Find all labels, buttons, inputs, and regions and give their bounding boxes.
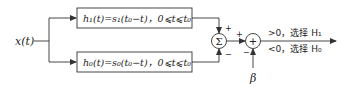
adder-node: + + −	[236, 30, 261, 57]
decision-upper-label: >0，选择 H₁	[268, 27, 322, 38]
summer-node: Σ + −	[212, 24, 232, 59]
summer-top-sign: +	[225, 24, 232, 33]
adder-left-sign: +	[236, 30, 243, 39]
threshold-label: β	[249, 72, 256, 85]
input-label: x(t)	[15, 35, 34, 48]
summer-bottom-sign: −	[225, 50, 232, 59]
filter-h0-label: h₀(t)=s₀(t₀−t)，0⩽t⩽t₀	[83, 57, 191, 68]
matched-filter-detector-diagram: x(t) h₁(t)=s₁(t₀−t)，0⩽t⩽t₀ h₀(t)=s₀(t₀−t…	[0, 0, 343, 87]
filter-h1-label: h₁(t)=s₁(t₀−t)，0⩽t⩽t₀	[83, 13, 191, 24]
adder-bottom-sign: −	[243, 48, 250, 57]
decision-lower-label: <0，选择 H₀	[268, 43, 322, 54]
filter-box-h1: h₁(t)=s₁(t₀−t)，0⩽t⩽t₀	[77, 8, 192, 28]
plus-symbol: +	[249, 36, 257, 47]
sigma-symbol: Σ	[215, 36, 222, 47]
filter-box-h0: h₀(t)=s₀(t₀−t)，0⩽t⩽t₀	[77, 52, 192, 72]
input-branch-lines	[34, 18, 76, 62]
